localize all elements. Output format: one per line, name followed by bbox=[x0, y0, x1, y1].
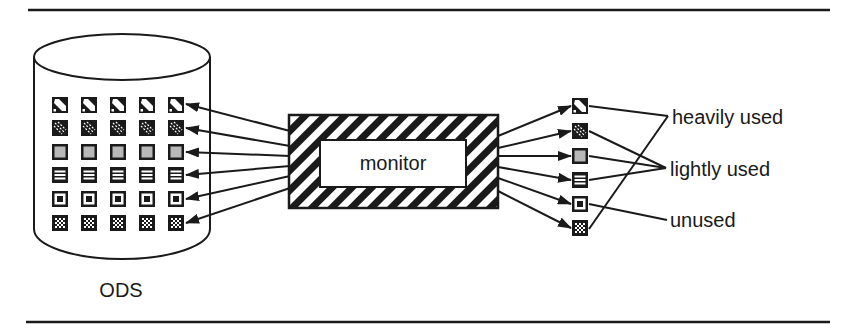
monitor-to-sample-arrows bbox=[498, 106, 571, 228]
sample-block-column bbox=[572, 98, 588, 236]
ods-monitor-diagram: ODS monitor bbox=[0, 0, 857, 332]
category-unused: unused bbox=[670, 209, 736, 231]
ods-label: ODS bbox=[99, 279, 142, 301]
category-connectors bbox=[589, 106, 668, 229]
category-heavily-used: heavily used bbox=[672, 106, 783, 128]
monitor-label: monitor bbox=[360, 152, 427, 174]
category-lightly-used: lightly used bbox=[670, 158, 770, 180]
monitor-box: monitor bbox=[289, 115, 498, 208]
